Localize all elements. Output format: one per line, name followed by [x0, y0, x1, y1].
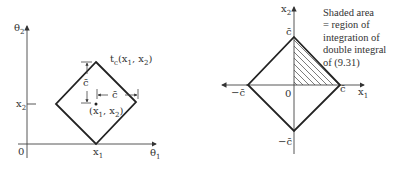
- theta2-axis-label: θ2: [14, 22, 25, 36]
- horizontal-dim-label: c̄: [112, 89, 118, 100]
- left-diagram: θ2 x2 0 x1 θ1 tc(x1, x2) (x1, x2) c̄ c̄: [14, 22, 161, 161]
- x1-axis-label: x1: [358, 86, 368, 100]
- origin-label-left: 0: [18, 146, 24, 157]
- origin-label-right: 0: [285, 88, 291, 99]
- note-line: = region of: [323, 19, 401, 31]
- note-line: Shaded area: [323, 7, 401, 19]
- theta1-axis-label: θ1: [150, 147, 161, 161]
- bottom-vertex-label: −c̄: [278, 136, 292, 147]
- right-vertex-label: c̄: [340, 83, 346, 94]
- note-line: of (9.31): [323, 57, 401, 69]
- note-line: integration of: [323, 32, 401, 44]
- left-vertex-label: −c̄: [231, 87, 245, 98]
- region-label-tc: tc(x1, x2): [110, 53, 152, 67]
- note-line: double integral: [323, 44, 401, 56]
- x1-tick-label: x1: [93, 146, 103, 160]
- x2-tick-label: x2: [16, 98, 26, 112]
- vertical-dim-label: c̄: [83, 77, 89, 88]
- center-point-label: (x1, x2): [89, 105, 123, 119]
- shaded-area-note: Shaded area = region of integration of d…: [323, 7, 401, 69]
- x2-axis-label: x2: [281, 3, 291, 17]
- top-vertex-label: c̄: [286, 26, 292, 37]
